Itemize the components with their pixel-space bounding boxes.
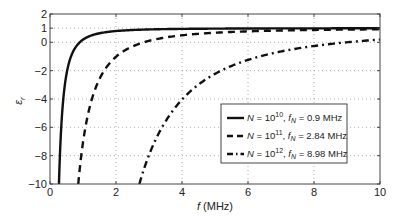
legend: N = 1010, fN = 0.9 MHz N = 1011, fN = 2.… <box>221 104 348 163</box>
x-tick-label: 6 <box>245 186 251 198</box>
y-axis-label: εr <box>12 97 27 105</box>
figure: 0246810−10−8−6−4−2012 f (MHz) εr N = 101… <box>0 0 394 220</box>
x-tick-label: 0 <box>47 186 53 198</box>
y-tick-label: 0 <box>41 36 47 48</box>
y-tick-label: −4 <box>34 93 47 105</box>
y-tick-label: 2 <box>41 8 47 20</box>
svg-text:εr: εr <box>12 97 27 105</box>
tick-labels: 0246810−10−8−6−4−2012 <box>28 8 386 198</box>
y-tick-label: −8 <box>34 150 47 162</box>
y-tick-label: 1 <box>41 22 47 34</box>
x-tick-label: 4 <box>179 186 185 198</box>
y-tick-label: −10 <box>28 178 47 190</box>
x-tick-label: 2 <box>113 186 119 198</box>
x-tick-label: 8 <box>311 186 317 198</box>
x-tick-label: 10 <box>374 186 386 198</box>
legend-item-3: N = 1012, fN = 8.98 MHz <box>247 147 348 160</box>
x-axis-label: f (MHz) <box>197 200 233 212</box>
legend-item-2: N = 1011, fN = 2.84 MHz <box>247 129 347 142</box>
line-chart: 0246810−10−8−6−4−2012 f (MHz) εr N = 101… <box>0 0 394 220</box>
y-tick-label: −6 <box>34 121 47 133</box>
y-tick-label: −2 <box>34 65 47 77</box>
